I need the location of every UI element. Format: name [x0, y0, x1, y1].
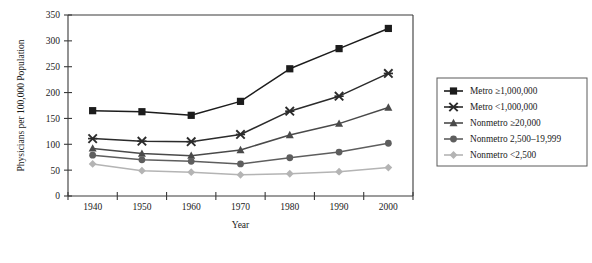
- data-point-marker: [138, 108, 145, 115]
- data-point-marker: [236, 130, 245, 138]
- series-layer: [88, 25, 393, 179]
- physicians-per-100000-line-chart: 050100150200250300350 194019501960197019…: [0, 0, 592, 263]
- data-point-marker: [188, 112, 195, 119]
- y-tick-label: 0: [55, 191, 60, 201]
- legend-item-label: Nonmetro 2,500–19,999: [470, 134, 562, 144]
- data-point-marker: [89, 160, 97, 168]
- data-point-marker: [450, 136, 457, 143]
- data-point-marker: [384, 69, 393, 77]
- data-point-marker: [286, 170, 294, 178]
- data-point-marker: [450, 87, 457, 94]
- x-tick-label: 1980: [280, 202, 299, 212]
- data-point-marker: [450, 151, 458, 159]
- series-2: [88, 69, 393, 146]
- data-point-marker: [335, 45, 342, 52]
- data-point-marker: [335, 168, 343, 176]
- chart-legend: Metro ≥1,000,000Metro <1,000,000Nonmetro…: [437, 78, 587, 166]
- legend-item-label: Nonmetro <2,500: [470, 150, 537, 160]
- y-tick-label: 300: [46, 36, 61, 46]
- series-4: [89, 140, 392, 167]
- data-point-marker: [139, 156, 146, 163]
- data-point-marker: [286, 154, 293, 161]
- data-point-marker: [89, 152, 96, 159]
- data-point-marker: [385, 25, 392, 32]
- data-point-marker: [88, 134, 97, 142]
- data-point-marker: [285, 107, 294, 115]
- y-tick-label: 50: [51, 166, 61, 176]
- data-point-marker: [138, 167, 146, 175]
- legend-item-label: Metro ≥1,000,000: [470, 86, 538, 96]
- series-1: [89, 25, 392, 119]
- data-point-marker: [237, 161, 244, 168]
- x-tick-label: 1960: [182, 202, 201, 212]
- legend-item-label: Nonmetro ≥20,000: [470, 118, 541, 128]
- data-point-marker: [449, 103, 458, 111]
- data-point-marker: [334, 92, 343, 100]
- data-point-marker: [237, 98, 244, 105]
- data-point-marker: [286, 65, 293, 72]
- series-line: [93, 73, 389, 141]
- data-point-marker: [89, 144, 97, 151]
- data-point-marker: [336, 149, 343, 156]
- data-point-marker: [187, 138, 196, 146]
- legend-item-3[interactable]: Nonmetro ≥20,000: [444, 118, 541, 128]
- x-tick-label: 1990: [330, 202, 349, 212]
- x-tick-label: 1940: [83, 202, 102, 212]
- data-point-marker: [89, 107, 96, 114]
- y-tick-label: 200: [46, 88, 61, 98]
- data-point-marker: [188, 158, 195, 165]
- legend-item-1[interactable]: Metro ≥1,000,000: [444, 86, 538, 96]
- data-point-marker: [384, 103, 392, 110]
- y-tick-label: 250: [46, 62, 61, 72]
- x-axis-title: Year: [232, 220, 250, 230]
- data-point-marker: [385, 140, 392, 147]
- x-tick-label: 2000: [379, 202, 398, 212]
- y-axis-title: Physicians per 100,000 Population: [16, 39, 26, 171]
- chart-figure: 050100150200250300350 194019501960197019…: [0, 0, 592, 263]
- data-point-marker: [237, 171, 245, 179]
- legend-item-4[interactable]: Nonmetro 2,500–19,999: [444, 134, 562, 144]
- y-tick-label: 150: [46, 114, 61, 124]
- y-tick-label: 350: [46, 10, 61, 20]
- plot-frame: [68, 15, 413, 196]
- legend-item-label: Metro <1,000,000: [470, 102, 538, 112]
- legend-item-5[interactable]: Nonmetro <2,500: [444, 150, 537, 160]
- x-tick-label: 1970: [231, 202, 250, 212]
- data-point-marker: [137, 137, 146, 145]
- data-point-marker: [384, 164, 392, 172]
- y-tick-label: 100: [46, 140, 61, 150]
- data-point-marker: [187, 168, 195, 176]
- x-axis: 1940195019601970198019902000: [68, 192, 413, 212]
- x-tick-label: 1950: [132, 202, 151, 212]
- legend-item-2[interactable]: Metro <1,000,000: [444, 102, 538, 112]
